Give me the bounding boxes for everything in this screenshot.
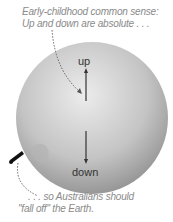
caption-top: Early-childhood common sense: Up and dow… bbox=[22, 6, 159, 30]
down-label: down bbox=[72, 166, 98, 178]
globe-diagram bbox=[0, 0, 173, 222]
caption-top-line2: Up and down are absolute . . . bbox=[22, 18, 159, 30]
caption-top-line1: Early-childhood common sense: bbox=[22, 6, 159, 18]
falling-person-icon bbox=[9, 151, 24, 164]
caption-bottom-line2: "fall off" the Earth. bbox=[18, 203, 134, 215]
up-label: up bbox=[78, 55, 90, 67]
caption-bottom-line1: . . . so Australians should bbox=[18, 191, 134, 203]
caption-bottom: . . . so Australians should "fall off" t… bbox=[18, 191, 134, 215]
